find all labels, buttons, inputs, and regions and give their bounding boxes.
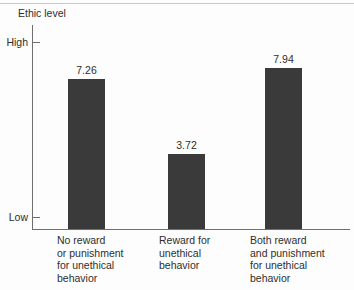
category-line: for unethical [250,259,325,272]
y-tick-high-label: High [6,36,28,48]
category-line: Reward for [159,234,210,247]
x-category-label-2: Reward for unethical behavior [159,234,210,272]
y-tick-low-label: Low [9,211,28,223]
category-line: and punishment [250,247,325,260]
y-tick-high-mark [33,42,40,43]
y-axis-title: Ethic level [18,7,66,19]
category-line: Both reward [250,234,325,247]
x-axis-line [32,229,350,230]
bar-value-label: 7.26 [76,64,96,76]
x-category-label-3: Both reward and punishment for unethical… [250,234,325,284]
bar-value-label: 3.72 [176,139,196,151]
bar-chart-figure: Ethic level High Low 7.26 3.72 7.94 No r… [0,0,354,290]
category-line: or punishment [57,247,124,260]
bar-value-label: 7.94 [273,53,293,65]
y-tick-high: High [33,42,40,43]
bar-reward-only[interactable]: 3.72 [168,154,205,229]
category-line: for unethical [57,259,124,272]
y-tick-low-mark [33,217,40,218]
category-line: unethical [159,247,210,260]
category-line: behavior [250,272,325,285]
y-tick-low: Low [33,217,40,218]
category-line: No reward [57,234,124,247]
category-line: behavior [159,259,210,272]
y-axis-line [32,25,33,230]
bar-no-reward-or-punishment[interactable]: 7.26 [68,79,105,229]
category-line: behavior [57,272,124,285]
page-top-rule [0,3,354,4]
x-category-label-1: No reward or punishment for unethical be… [57,234,124,284]
bar-both-reward-and-punishment[interactable]: 7.94 [265,68,302,229]
